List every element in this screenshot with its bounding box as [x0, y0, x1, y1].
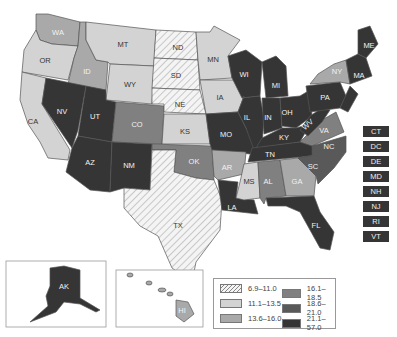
small-state-nh[interactable]: NH — [363, 186, 389, 197]
legend-item: 13.6–16.0 — [220, 314, 281, 323]
state-label-oh: OH — [281, 108, 292, 117]
legend-label: 11.1–13.5 — [248, 299, 281, 308]
state-label-sc: SC — [308, 162, 319, 171]
state-label-nc: NC — [324, 142, 335, 151]
legend-item: 6.9–11.0 — [220, 284, 277, 293]
small-state-de[interactable]: DE — [363, 156, 389, 167]
state-label-va: VA — [319, 126, 328, 135]
legend-swatch — [282, 289, 301, 298]
state-label-ma: MA — [353, 71, 364, 80]
hawaii-island-small — [167, 292, 173, 296]
state-label-il: IL — [244, 113, 250, 122]
legend-swatch — [220, 299, 242, 308]
state-label-az: AZ — [85, 158, 95, 167]
legend: 6.9–11.011.1–13.513.6–16.016.1–18.518.6–… — [213, 278, 336, 329]
small-state-nj[interactable]: NJ — [363, 201, 389, 212]
state-label-la: LA — [227, 203, 236, 212]
state-label-fl: FL — [312, 221, 321, 230]
state-label-mo: MO — [220, 130, 232, 139]
state-label-wi: WI — [239, 70, 248, 79]
small-state-ct[interactable]: CT — [363, 126, 389, 137]
state-label-in: IN — [264, 113, 272, 122]
legend-swatch — [282, 319, 301, 328]
small-state-ri[interactable]: RI — [363, 216, 389, 227]
small-state-md[interactable]: MD — [363, 171, 389, 182]
state-label-ok: OK — [189, 157, 200, 166]
legend-item: 11.1–13.5 — [220, 299, 281, 308]
state-label-al: AL — [263, 177, 272, 186]
state-label-sd: SD — [171, 71, 182, 80]
hawaii-island-small — [158, 288, 166, 292]
state-FL[interactable] — [266, 196, 334, 250]
legend-label: 6.9–11.0 — [248, 284, 277, 293]
state-MI[interactable] — [262, 56, 288, 98]
state-label-ky: KY — [279, 133, 289, 142]
hawaii-island-small — [146, 281, 152, 285]
hawaii-island-small — [127, 273, 133, 277]
legend-swatch — [220, 284, 242, 293]
state-label-nm: NM — [123, 161, 135, 170]
state-label-tn: TN — [265, 150, 275, 159]
state-NY[interactable] — [310, 60, 350, 84]
state-label-me: ME — [363, 41, 374, 50]
small-state-vt[interactable]: VT — [363, 231, 389, 242]
hawaii-inset-frame — [116, 270, 203, 327]
state-label-mt: MT — [118, 40, 129, 49]
state-label-pa: PA — [320, 93, 329, 102]
state-label-ny: NY — [332, 67, 342, 76]
state-label-tx: TX — [173, 221, 183, 230]
state-label-hi: HI — [178, 306, 186, 315]
state-label-ar: AR — [222, 163, 233, 172]
small-state-dc[interactable]: DC — [363, 141, 389, 152]
state-label-ut: UT — [90, 112, 100, 121]
state-label-nd: ND — [173, 43, 184, 52]
state-label-ne: NE — [175, 100, 185, 109]
us-choropleth-map: WAORCAIDNVMTWYUTAZCONMNDSDNEKSOKTXMNIAMO… — [0, 0, 397, 337]
legend-item: 21.1–57.0 — [282, 314, 335, 332]
state-label-wa: WA — [52, 28, 64, 37]
state-label-mn: MN — [207, 55, 219, 64]
legend-label: 21.1–57.0 — [307, 314, 335, 332]
state-label-co: CO — [131, 120, 142, 129]
legend-swatch — [282, 304, 301, 313]
state-label-or: OR — [39, 56, 51, 65]
state-label-ak: AK — [59, 282, 69, 291]
state-label-ms: MS — [243, 177, 254, 186]
state-label-ca: CA — [28, 117, 38, 126]
state-label-id: ID — [83, 67, 91, 76]
state-label-mi: MI — [272, 81, 280, 90]
legend-label: 13.6–16.0 — [248, 314, 281, 323]
state-label-ks: KS — [180, 127, 190, 136]
state-label-ga: GA — [292, 177, 303, 186]
state-label-ia: IA — [216, 93, 223, 102]
legend-swatch — [220, 314, 242, 323]
state-label-wy: WY — [124, 80, 136, 89]
state-label-nv: NV — [57, 107, 67, 116]
